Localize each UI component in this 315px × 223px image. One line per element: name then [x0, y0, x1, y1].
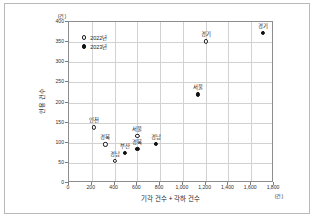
data-point-label: 서울 [193, 83, 203, 91]
y-tick-label: 100 [56, 139, 65, 145]
gridline-horizontal [69, 163, 272, 164]
data-point-label: 경북 [132, 138, 142, 146]
y-tick-mark [65, 142, 68, 143]
chart-legend: 2022년2023년 [82, 33, 107, 51]
y-tick-mark [65, 182, 68, 183]
x-tick-mark [91, 182, 92, 185]
x-tick-mark [182, 182, 183, 185]
gridline-vertical [228, 22, 229, 181]
y-tick-label: 250 [56, 78, 65, 84]
data-point-label: 서울 [132, 125, 142, 133]
legend-item[interactable]: 2023년 [82, 42, 107, 51]
legend-marker-icon [82, 35, 86, 39]
data-point-label: 경남 [110, 150, 120, 158]
data-point-label: 경기 [201, 30, 211, 38]
data-point-label: 경남 [151, 133, 161, 141]
y-tick-mark [65, 41, 68, 42]
gridline-horizontal [69, 103, 272, 104]
y-tick-label: 400 [56, 18, 65, 24]
data-point-label: 경북 [100, 133, 110, 141]
gridline-horizontal [69, 62, 272, 63]
x-tick-mark [159, 182, 160, 185]
x-axis-unit: (건) [275, 192, 283, 199]
gridline-horizontal [69, 82, 272, 83]
data-point[interactable] [153, 142, 157, 146]
data-point[interactable] [103, 142, 107, 146]
gridline-horizontal [69, 123, 272, 124]
x-tick-mark [68, 182, 69, 185]
data-point[interactable] [196, 92, 200, 96]
legend-label: 2022년 [90, 34, 107, 42]
y-tick-label: 0 [61, 179, 64, 185]
gridline-vertical [160, 22, 161, 181]
data-point[interactable] [92, 125, 96, 129]
data-point-label: 인천 [89, 116, 99, 124]
gridline-vertical [251, 22, 252, 181]
y-tick-label: 200 [56, 99, 65, 105]
y-tick-mark [65, 61, 68, 62]
y-tick-mark [65, 81, 68, 82]
y-tick-label: 50 [58, 159, 64, 165]
y-tick-mark [65, 102, 68, 103]
y-tick-mark [65, 122, 68, 123]
y-axis-title: 인용 건수 [37, 88, 46, 114]
x-tick-mark [205, 182, 206, 185]
y-tick-label: 150 [56, 119, 65, 125]
x-tick-mark [114, 182, 115, 185]
data-point[interactable] [135, 147, 139, 151]
x-tick-mark [250, 182, 251, 185]
data-point[interactable] [123, 151, 127, 155]
gridline-vertical [137, 22, 138, 181]
data-point-label: 부산 [120, 142, 130, 150]
legend-marker-icon [82, 44, 86, 48]
x-tick-mark [227, 182, 228, 185]
gridline-horizontal [69, 143, 272, 144]
y-tick-mark [65, 21, 68, 22]
data-point-label: 경기 [258, 22, 268, 30]
y-tick-mark [65, 162, 68, 163]
legend-item[interactable]: 2022년 [82, 33, 107, 42]
y-tick-label: 300 [56, 58, 65, 64]
gridline-vertical [206, 22, 207, 181]
data-point[interactable] [261, 31, 265, 35]
y-tick-label: 350 [56, 38, 65, 44]
x-tick-mark [273, 182, 274, 185]
x-tick-mark [136, 182, 137, 185]
legend-label: 2023년 [90, 43, 107, 51]
gridline-vertical [183, 22, 184, 181]
x-axis-title: 기각 건수 + 각하 건수 [68, 194, 273, 203]
scatter-chart-figure: (건) (건) 인용 건수 기각 건수 + 각하 건수 인천경북경남서울경기부산… [0, 0, 315, 223]
